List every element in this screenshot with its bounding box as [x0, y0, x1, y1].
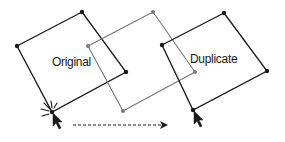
ghost-vertex-handle: [121, 109, 125, 113]
duplicate-drag-diagram: Original Duplicate: [0, 0, 285, 142]
click-burst-icon: [41, 101, 57, 116]
arrow-head-icon: [160, 121, 168, 129]
duplicate-vertex-handle: [160, 43, 164, 47]
duplicate-vertex-handle: [222, 11, 226, 15]
drag-arrow: [73, 121, 168, 129]
mouse-pointer-icon: [53, 113, 62, 129]
original-vertex-handle: [15, 44, 19, 48]
original-vertex-handle: [80, 10, 84, 14]
duplicate-label: Duplicate: [190, 52, 238, 66]
ghost-vertex-handle: [86, 44, 90, 48]
ghost-vertex-handle: [193, 70, 197, 74]
original-vertex-handle: [124, 70, 128, 74]
original-label: Original: [52, 55, 91, 69]
ghost-shape: [86, 10, 197, 113]
duplicate-vertex-handle: [265, 69, 269, 73]
ghost-vertex-handle: [151, 10, 155, 14]
mouse-pointer-icon: [194, 111, 203, 127]
